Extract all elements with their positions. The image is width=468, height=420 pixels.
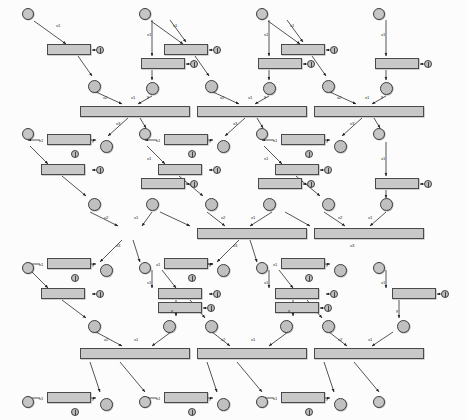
ep-node-ep5[interactable] — [305, 274, 313, 282]
transition-st3[interactable] — [275, 288, 319, 299]
place-p18[interactable] — [205, 80, 218, 93]
place-p17[interactable] — [217, 140, 230, 153]
place-p1[interactable] — [397, 320, 410, 333]
place-p21[interactable] — [88, 320, 101, 333]
grid-node-10[interactable] — [22, 128, 34, 140]
transition-st7[interactable] — [275, 302, 319, 313]
grid-node-32[interactable] — [256, 396, 268, 408]
place-p26[interactable] — [100, 140, 113, 153]
place-p12[interactable] — [205, 320, 218, 333]
grid-node-20[interactable] — [22, 262, 34, 274]
place-p5[interactable] — [334, 264, 347, 277]
grid-node-13[interactable] — [373, 128, 385, 140]
transition-st25[interactable] — [141, 58, 185, 69]
place-p19[interactable] — [163, 320, 176, 333]
transition-st20[interactable] — [47, 392, 91, 403]
place-p13[interactable] — [263, 198, 276, 211]
grid-node-02[interactable] — [256, 8, 268, 20]
grid-node-31[interactable] — [139, 396, 151, 408]
ep-node-ep2[interactable] — [305, 408, 313, 416]
ep-node-ep27[interactable] — [96, 46, 104, 54]
place-p3[interactable] — [322, 320, 335, 333]
ep-node-ep8[interactable] — [188, 408, 196, 416]
grid-node-03[interactable] — [373, 8, 385, 20]
ep-node-ep6[interactable] — [324, 166, 332, 174]
ep-node-ep17[interactable] — [188, 150, 196, 158]
min-node-m3[interactable] — [197, 348, 307, 359]
transition-st1[interactable] — [392, 288, 436, 299]
grid-node-00[interactable] — [22, 8, 34, 20]
transition-st15[interactable] — [281, 44, 325, 55]
place-p15[interactable] — [205, 198, 218, 211]
ep-node-ep3[interactable] — [330, 290, 338, 298]
transition-st18[interactable] — [164, 44, 208, 55]
min-node-m8[interactable] — [80, 106, 190, 117]
place-p11[interactable] — [217, 398, 230, 411]
transition-st12[interactable] — [158, 164, 202, 175]
ep-node-ep13[interactable] — [424, 60, 432, 68]
transition-st10[interactable] — [258, 178, 302, 189]
min-node-m6[interactable] — [197, 106, 307, 117]
transition-st5[interactable] — [281, 258, 325, 269]
grid-node-30[interactable] — [22, 396, 34, 408]
grid-node-22[interactable] — [256, 262, 268, 274]
transition-st14[interactable] — [281, 134, 325, 145]
ep-node-ep15[interactable] — [330, 46, 338, 54]
ep-node-ep4[interactable] — [424, 180, 432, 188]
grid-node-01[interactable] — [139, 8, 151, 20]
transition-st11[interactable] — [164, 258, 208, 269]
place-p9[interactable] — [322, 80, 335, 93]
grid-node-11[interactable] — [139, 128, 151, 140]
grid-node-12[interactable] — [256, 128, 268, 140]
transition-st9[interactable] — [158, 288, 202, 299]
ep-node-ep9[interactable] — [213, 290, 221, 298]
place-p23[interactable] — [100, 264, 113, 277]
transition-st21[interactable] — [41, 288, 85, 299]
ep-node-ep19[interactable] — [207, 304, 215, 312]
place-p27[interactable] — [88, 80, 101, 93]
place-p4[interactable] — [380, 198, 393, 211]
grid-node-33[interactable] — [373, 396, 385, 408]
transition-st23[interactable] — [47, 258, 91, 269]
ep-node-ep1[interactable] — [441, 290, 449, 298]
ep-node-ep10[interactable] — [307, 180, 315, 188]
transition-st19[interactable] — [158, 302, 202, 313]
transition-st8[interactable] — [164, 392, 208, 403]
ep-node-ep11[interactable] — [188, 274, 196, 282]
grid-node-23[interactable] — [373, 262, 385, 274]
transition-st27[interactable] — [47, 44, 91, 55]
ep-node-ep25[interactable] — [190, 60, 198, 68]
place-p6[interactable] — [322, 198, 335, 211]
transition-st24[interactable] — [41, 164, 85, 175]
min-node-m5[interactable] — [314, 106, 424, 117]
transition-st26[interactable] — [47, 134, 91, 145]
ep-node-ep18[interactable] — [213, 46, 221, 54]
transition-st17[interactable] — [164, 134, 208, 145]
transition-st13[interactable] — [375, 58, 419, 69]
transition-st4[interactable] — [375, 178, 419, 189]
ep-node-ep23[interactable] — [71, 274, 79, 282]
transition-st16[interactable] — [258, 58, 302, 69]
place-p10[interactable] — [280, 320, 293, 333]
ep-node-ep14[interactable] — [305, 150, 313, 158]
place-p22[interactable] — [146, 198, 159, 211]
ep-node-ep20[interactable] — [71, 408, 79, 416]
ep-node-ep21[interactable] — [96, 290, 104, 298]
grid-node-21[interactable] — [139, 262, 151, 274]
min-node-m2[interactable] — [314, 228, 424, 239]
place-p2[interactable] — [334, 398, 347, 411]
min-node-m1[interactable] — [314, 348, 424, 359]
ep-node-ep16[interactable] — [307, 60, 315, 68]
place-p24[interactable] — [88, 198, 101, 211]
ep-node-ep26[interactable] — [71, 150, 79, 158]
place-p8[interactable] — [334, 140, 347, 153]
place-p20[interactable] — [100, 398, 113, 411]
transition-st2[interactable] — [281, 392, 325, 403]
ep-node-ep22[interactable] — [190, 180, 198, 188]
min-node-m4[interactable] — [197, 228, 307, 239]
ep-node-ep24[interactable] — [96, 166, 104, 174]
ep-node-ep7[interactable] — [324, 304, 332, 312]
transition-st22[interactable] — [141, 178, 185, 189]
min-node-m7[interactable] — [80, 348, 190, 359]
place-p14[interactable] — [217, 264, 230, 277]
